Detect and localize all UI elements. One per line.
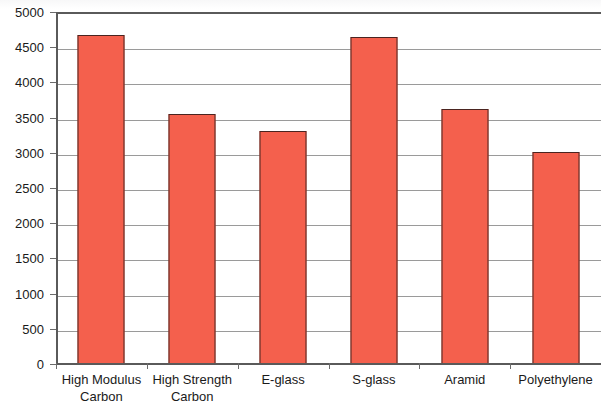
x-axis-category-label: S-glass [329, 371, 420, 388]
x-axis-category-label: Polyethylene [510, 371, 601, 388]
bar[interactable] [350, 37, 397, 364]
y-axis-tick-label: 2500 [0, 182, 44, 195]
x-axis-tick [238, 363, 239, 369]
bar[interactable] [441, 109, 488, 364]
bar-slot [510, 12, 601, 364]
y-axis-tick-label: 4500 [0, 41, 44, 54]
x-axis-tick [147, 363, 148, 369]
chart-screenshot: 0500100015002000250030003500400045005000… [0, 0, 601, 417]
x-axis-category-label: Aramid [419, 371, 510, 388]
bar-slot [419, 12, 510, 364]
y-axis-tick-label: 2000 [0, 217, 44, 230]
bar[interactable] [260, 131, 307, 364]
bar-slot [147, 12, 238, 364]
bar[interactable] [532, 152, 579, 364]
x-axis-category-label: High Modulus Carbon [56, 371, 147, 405]
bar[interactable] [78, 35, 125, 364]
y-axis-tick-label: 500 [0, 323, 44, 336]
x-axis-tick [329, 363, 330, 369]
y-axis-tick-label: 1000 [0, 288, 44, 301]
y-axis-tick-label: 0 [0, 358, 44, 371]
y-axis-tick-label: 3000 [0, 147, 44, 160]
x-axis-category-label: E-glass [238, 371, 329, 388]
y-axis-tick-label: 5000 [0, 6, 44, 19]
x-axis-labels-group: High Modulus CarbonHigh Strength CarbonE… [56, 371, 601, 417]
y-axis-tick-label: 4000 [0, 76, 44, 89]
bars-group [56, 12, 601, 364]
y-axis-tick-label: 1500 [0, 252, 44, 265]
bar-slot [238, 12, 329, 364]
x-axis-tick [56, 363, 57, 369]
bar[interactable] [169, 114, 216, 364]
bar-slot [329, 12, 420, 364]
x-axis-tick [419, 363, 420, 369]
y-axis-tick-label: 3500 [0, 112, 44, 125]
x-axis-tick [510, 363, 511, 369]
x-axis-category-label: High Strength Carbon [147, 371, 238, 405]
bar-slot [56, 12, 147, 364]
